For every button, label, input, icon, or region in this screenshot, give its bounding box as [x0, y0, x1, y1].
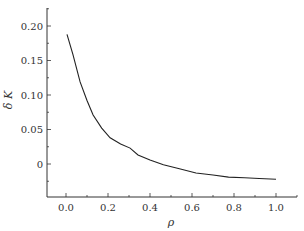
x-tick-label: 0.4	[142, 202, 158, 213]
y-tick-label: 0.20	[21, 21, 43, 32]
y-tick-label: 0.10	[21, 90, 43, 101]
y-tick-label: 0	[37, 159, 43, 170]
axes: 00.050.100.150.20 0.00.20.40.60.81.0	[21, 8, 297, 213]
x-tick-label: 0.0	[58, 202, 74, 213]
data-line	[67, 34, 276, 179]
x-tick-label: 0.2	[100, 202, 116, 213]
x-tick-label: 1.0	[268, 202, 284, 213]
x-ticks: 0.00.20.40.60.81.0	[58, 193, 297, 213]
x-tick-label: 0.8	[226, 202, 242, 213]
y-axis-label: δ K	[2, 90, 15, 109]
x-axis-label: ρ	[167, 216, 175, 229]
y-ticks: 00.050.100.150.20	[21, 9, 51, 182]
x-tick-label: 0.6	[184, 202, 200, 213]
y-tick-label: 0.05	[21, 124, 43, 135]
chart: 00.050.100.150.20 0.00.20.40.60.81.0 ρ δ…	[0, 0, 304, 231]
y-tick-label: 0.15	[21, 55, 43, 66]
